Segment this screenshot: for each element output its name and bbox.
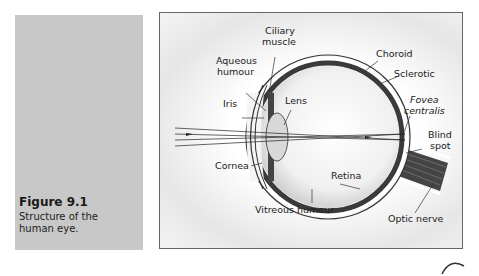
label-fovea-centralis-2: centralis	[404, 105, 445, 116]
page-curl-mark	[440, 256, 466, 276]
label-lens: Lens	[285, 95, 307, 106]
label-vitreous-humour: Vitreous humour	[255, 204, 334, 215]
label-blind-spot-1: Blind	[428, 129, 452, 140]
label-blind-spot-2: spot	[430, 140, 451, 151]
caption-line-2: human eye.	[19, 223, 139, 235]
label-aqueous-humour-1: Aqueous	[216, 55, 257, 66]
label-iris: Iris	[223, 98, 237, 109]
eye-diagram: Ciliary muscle Aqueous humour Iris Lens …	[159, 12, 463, 249]
label-fovea-centralis-1: Fovea	[410, 94, 439, 105]
label-sclerotic: Sclerotic	[394, 68, 435, 79]
label-aqueous-humour-2: humour	[217, 66, 254, 77]
label-choroid: Choroid	[376, 48, 413, 59]
label-ciliary-muscle-1: Ciliary	[265, 25, 295, 36]
caption-panel: Figure 9.1 Structure of the human eye.	[15, 15, 143, 250]
figure-caption: Structure of the human eye.	[19, 211, 139, 235]
figure-number: Figure 9.1	[19, 195, 88, 209]
eye-diagram-svg: Ciliary muscle Aqueous humour Iris Lens …	[160, 13, 462, 248]
caption-line-1: Structure of the	[19, 211, 139, 223]
label-cornea: Cornea	[215, 160, 249, 171]
label-retina: Retina	[331, 170, 361, 181]
label-ciliary-muscle-2: muscle	[262, 36, 296, 47]
label-optic-nerve: Optic nerve	[388, 213, 444, 224]
